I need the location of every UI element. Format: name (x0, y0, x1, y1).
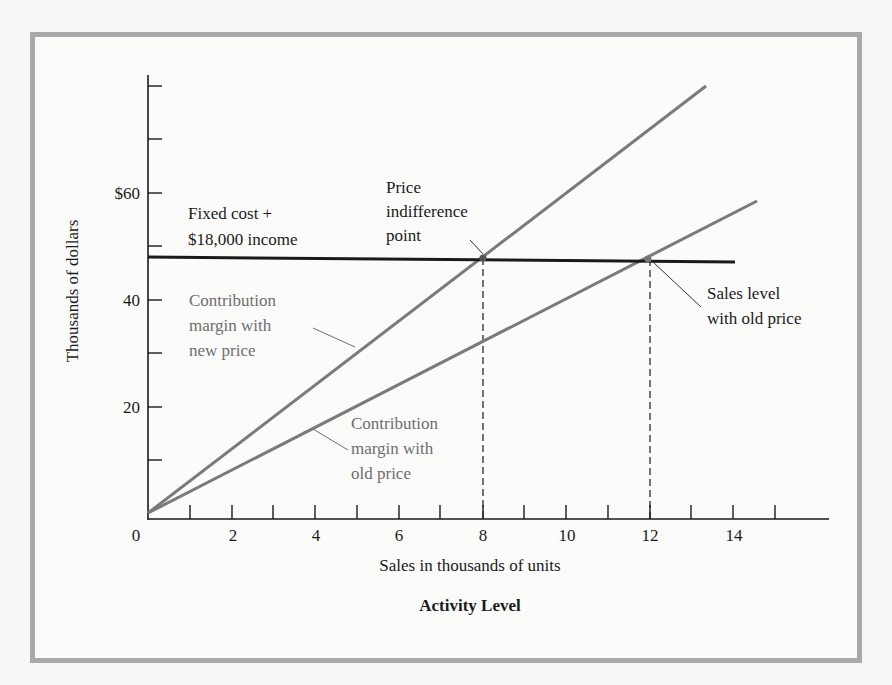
x-tick-label-14: 14 (726, 526, 744, 545)
old-level-leader (653, 262, 701, 307)
y-ticks (148, 86, 162, 460)
y-tick-label-60: $60 (115, 184, 141, 203)
x-tick-label-6: 6 (395, 526, 404, 545)
x-tick-label-0: 0 (132, 526, 141, 545)
cm-new-label-1: Contribution (189, 291, 276, 310)
chart-canvas: 20 40 $60 0 2 4 6 8 10 12 14 Thousands o… (0, 0, 892, 685)
x-tick-label-2: 2 (229, 526, 238, 545)
cm-new-label-2: margin with (189, 316, 272, 335)
y-axis-title: Thousands of dollars (63, 220, 82, 363)
cm-new-label-3: new price (189, 341, 256, 360)
indifference-label-2: indifference (386, 202, 468, 221)
x-tick-label-4: 4 (312, 526, 321, 545)
indifference-point (480, 255, 487, 262)
cm-new-leader (313, 328, 355, 347)
fixed-cost-label-2: $18,000 income (188, 230, 298, 249)
cm-old-label-3: old price (351, 464, 411, 483)
old-level-label-1: Sales level (707, 284, 780, 303)
x-tick-label-8: 8 (479, 526, 488, 545)
x-axis-title: Sales in thousands of units (379, 556, 560, 575)
cm-old-label-1: Contribution (351, 414, 438, 433)
y-tick-label-40: 40 (123, 291, 140, 310)
cm-old-label-2: margin with (351, 439, 434, 458)
old-level-label-2: with old price (707, 309, 801, 328)
y-tick-label-20: 20 (123, 398, 140, 417)
fixed-cost-label-1: Fixed cost + (188, 204, 272, 223)
cm-old-leader (313, 429, 348, 450)
indifference-leader (470, 240, 483, 254)
chart-title: Activity Level (419, 596, 521, 615)
indifference-label-3: point (386, 226, 421, 245)
x-tick-label-10: 10 (559, 526, 576, 545)
indifference-label-1: Price (386, 178, 421, 197)
x-tick-label-12: 12 (642, 526, 659, 545)
old-price-point (645, 256, 652, 263)
